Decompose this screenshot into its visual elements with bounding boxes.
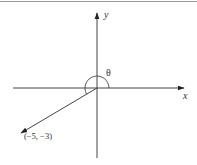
theta-label: θ bbox=[106, 67, 111, 78]
y-axis-label: y bbox=[103, 9, 109, 20]
point-label: (−5, −3) bbox=[24, 131, 52, 141]
vector-arrow bbox=[21, 88, 97, 133]
coordinate-diagram: y x θ (−5, −3) bbox=[0, 0, 197, 165]
x-axis-label: x bbox=[182, 90, 188, 101]
